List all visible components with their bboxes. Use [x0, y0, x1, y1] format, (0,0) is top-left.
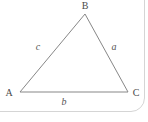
side-label-b: b — [62, 97, 67, 107]
triangle-diagram — [0, 0, 148, 122]
vertex-label-C: C — [133, 88, 140, 98]
vertex-label-B: B — [82, 1, 89, 11]
side-label-c: c — [36, 42, 40, 52]
side-label-a: a — [112, 42, 117, 52]
page: B A C c a b — [0, 0, 148, 122]
triangle-shape — [20, 14, 128, 92]
vertex-label-A: A — [5, 88, 12, 98]
